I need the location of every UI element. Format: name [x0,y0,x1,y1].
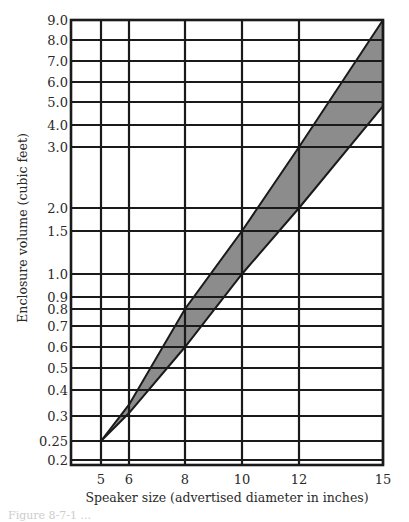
x-tick-label: 10 [234,472,251,487]
y-tick-label: 0.4 [47,383,68,398]
x-tick-label: 5 [97,472,105,487]
y-tick-label: 2.0 [47,201,68,216]
x-axis-ticks: 568101215 [97,472,391,487]
y-tick-label: 5.0 [47,95,68,110]
grid-lines [71,20,383,465]
y-tick-label: 0.6 [47,340,68,355]
y-tick-label: 0.8 [47,302,68,317]
y-tick-label: 1.5 [47,224,68,239]
y-tick-label: 4.0 [47,118,68,133]
figure-caption-cutoff: Figure 8-7-1 ... [8,509,91,522]
y-tick-label: 0.7 [47,319,68,334]
y-tick-label: 0.2 [47,453,68,468]
y-tick-label: 0.5 [47,361,68,376]
y-tick-label: 3.0 [47,140,68,155]
y-tick-label: 0.3 [47,409,68,424]
x-tick-label: 12 [291,472,308,487]
plot-border [71,20,383,465]
y-tick-label: 0.25 [39,434,68,449]
x-tick-label: 6 [125,472,133,487]
y-axis-label: Enclosure volume (cubic feet) [15,133,30,323]
y-tick-label: 7.0 [47,54,68,69]
y-tick-label: 1.0 [47,267,68,282]
y-tick-label: 9.0 [47,13,68,28]
y-tick-label: 8.0 [47,33,68,48]
x-axis-label: Speaker size (advertised diameter in inc… [85,490,368,505]
y-axis-ticks: 9.08.07.06.05.04.03.02.01.51.00.90.80.70… [39,13,68,468]
x-tick-label: 15 [375,472,392,487]
y-tick-label: 6.0 [47,75,68,90]
x-tick-label: 8 [181,472,189,487]
